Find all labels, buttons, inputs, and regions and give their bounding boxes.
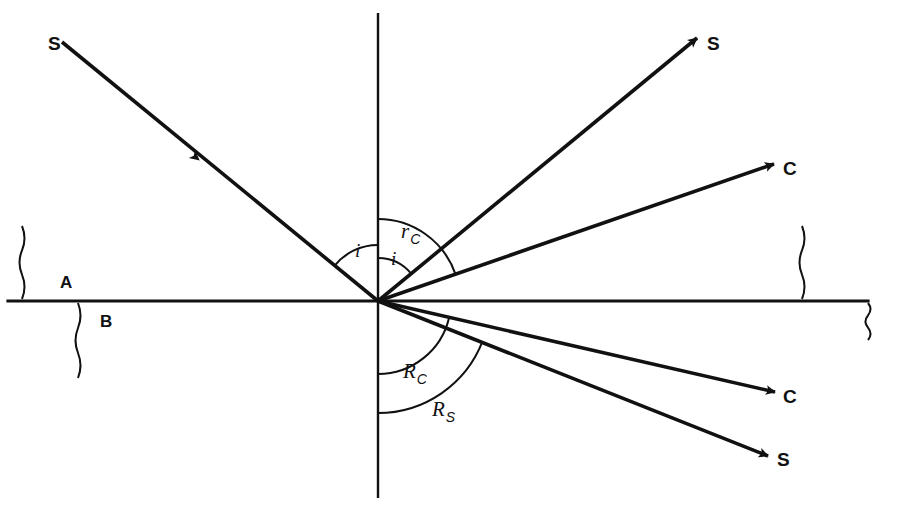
angle-refraction-cloud-subscript: C: [417, 371, 428, 387]
reflected-sky-ray: [378, 38, 697, 301]
angle-refraction-cloud-symbol: R: [402, 359, 416, 383]
angle-refraction-sky-subscript: S: [446, 409, 456, 425]
angle-refraction-sky-label: RS: [431, 397, 456, 425]
angle-of-incidence-right-label: i: [391, 248, 396, 269]
refracted-cloud-ray-label: C: [783, 386, 797, 407]
angle-refraction-cloud-label: RC: [402, 359, 428, 387]
angle-reflection-cloud-symbol: r: [401, 219, 410, 243]
break-mark-left-upper: [20, 226, 25, 299]
medium-b-label: B: [100, 312, 112, 331]
angle-of-incidence-left-symbol: i: [355, 240, 360, 261]
break-mark-right-lower: [866, 303, 871, 340]
break-mark-left-lower: [76, 303, 81, 378]
reflected-cloud-ray: [378, 164, 774, 301]
angle-of-incidence-right-symbol: i: [391, 248, 396, 269]
refracted-sky-ray-label: S: [777, 449, 790, 470]
medium-a-label: A: [60, 273, 72, 292]
interface-line-group: [8, 13, 868, 498]
angle-refraction-sky-symbol: R: [431, 397, 445, 421]
rays-group: [62, 38, 775, 456]
reflected-sky-ray-label: S: [707, 33, 720, 54]
angle-of-incidence-left-label: i: [355, 240, 360, 261]
diagram-canvas: SSCCS iirCRCRS AB: [0, 0, 898, 514]
reflected-cloud-ray-label: C: [783, 158, 797, 179]
angle-reflection-cloud-label: rC: [401, 219, 421, 247]
optics-diagram: SSCCS iirCRCRS AB: [0, 0, 898, 514]
incident-sky-ray: [62, 42, 378, 301]
incident-sky-ray-label: S: [48, 33, 61, 54]
angle-reflection-cloud-subscript: C: [410, 231, 421, 247]
break-mark-right-upper: [800, 226, 805, 299]
